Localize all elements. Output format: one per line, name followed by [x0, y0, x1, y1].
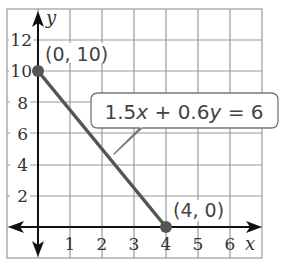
rhs: 6 [251, 100, 264, 124]
x-tick: 2 [97, 234, 108, 254]
y-tick: 12 [10, 30, 32, 50]
x-tick: 1 [65, 234, 76, 254]
x-tick-labels: 1 2 3 4 5 6 [65, 234, 236, 254]
x-tick: 3 [129, 234, 140, 254]
x-tick: 6 [225, 234, 236, 254]
point-4-0 [160, 221, 172, 233]
point-label-4-0: (4, 0) [173, 199, 224, 221]
y-tick: 8 [17, 93, 28, 113]
y-tick: 4 [17, 155, 28, 175]
coef-y: 0.6 [178, 100, 210, 124]
coef-x: 1.5 [104, 100, 136, 124]
equation-text: 1.5x + 0.6y = 6 [104, 100, 263, 124]
y-axis-label: y [45, 7, 57, 28]
equals-sign: = [221, 100, 250, 124]
y-tick-labels: 2 4 6 8 10 12 [9, 30, 33, 206]
coordinate-graph: 1 2 3 4 5 6 x 2 4 6 8 10 12 y (0, 10) (4… [0, 0, 283, 274]
x-tick: 4 [161, 234, 172, 254]
var-x: x [135, 100, 148, 124]
x-axis-label: x [245, 233, 255, 254]
point-0-10 [32, 65, 44, 77]
equation-callout: 1.5x + 0.6y = 6 [91, 93, 278, 154]
y-tick: 2 [17, 186, 28, 206]
y-tick: 6 [17, 124, 28, 144]
y-tick: 10 [10, 61, 32, 81]
point-label-0-10: (0, 10) [45, 43, 108, 65]
plus-sign: + [148, 100, 177, 124]
x-tick: 5 [193, 234, 204, 254]
